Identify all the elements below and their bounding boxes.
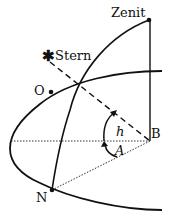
observer-label: B (151, 126, 161, 141)
vertical-circle-arc (52, 20, 149, 190)
horizon-coordinate-diagram: Zenit ✱ Stern O N B h A (0, 0, 169, 221)
east-point (49, 90, 54, 95)
altitude-label: h (116, 124, 124, 139)
zenith-label: Zenit (111, 5, 146, 20)
zenith-point (147, 18, 152, 23)
north-label: N (36, 190, 47, 205)
star-label: Stern (55, 48, 92, 63)
azimuth-label: A (114, 143, 124, 158)
east-label: O (34, 83, 45, 98)
north-direction-line (52, 141, 150, 190)
altitude-arc (104, 113, 114, 141)
azimuth-arrow-icon (101, 141, 108, 147)
star-icon: ✱ (42, 47, 55, 65)
north-point (50, 188, 55, 193)
